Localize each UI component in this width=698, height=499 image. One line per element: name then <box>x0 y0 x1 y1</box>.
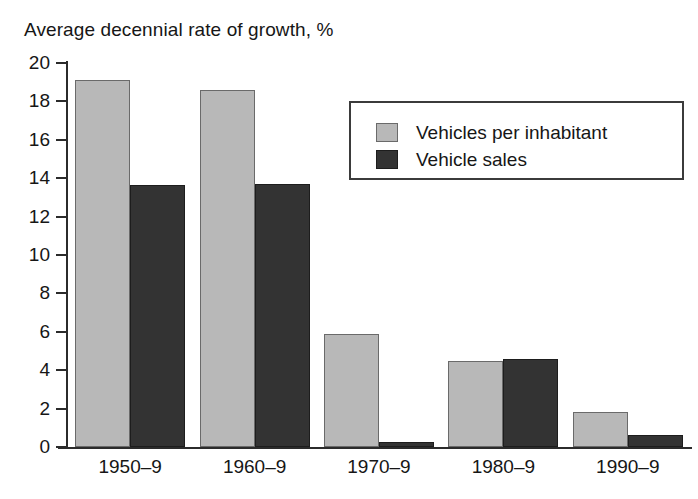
y-axis-tick-label: 14 <box>0 168 50 187</box>
x-axis-tick-label: 1980–9 <box>441 456 565 478</box>
bar[interactable] <box>75 80 130 447</box>
y-axis-tick <box>56 369 66 371</box>
bar[interactable] <box>130 185 185 447</box>
chart-legend: Vehicles per inhabitantVehicle sales <box>349 101 684 180</box>
y-axis-tick-label-text: 16 <box>2 130 50 149</box>
chart-title: Average decennial rate of growth, % <box>24 19 333 41</box>
y-axis-tick-label: 0 <box>0 437 50 456</box>
y-axis-tick-label-text: 0 <box>2 437 50 456</box>
y-axis-tick <box>56 292 66 294</box>
bar-group <box>200 63 310 447</box>
y-axis-tick-label-text: 10 <box>2 245 50 264</box>
y-axis-tick <box>56 100 66 102</box>
y-axis-tick <box>56 216 66 218</box>
y-axis-tick-label-text: 12 <box>2 207 50 226</box>
bar[interactable] <box>200 90 255 447</box>
x-axis-tick-label: 1960–9 <box>192 456 316 478</box>
y-axis-tick-label: 2 <box>0 399 50 418</box>
bar-group <box>75 63 185 447</box>
y-axis-tick-label-text: 8 <box>2 283 50 302</box>
bar[interactable] <box>628 435 683 447</box>
y-axis-tick <box>56 177 66 179</box>
bar[interactable] <box>503 359 558 447</box>
y-axis-tick-label: 12 <box>0 207 50 226</box>
bar[interactable] <box>448 361 503 447</box>
y-axis-tick-label: 4 <box>0 360 50 379</box>
y-axis-tick-label-text: 18 <box>2 91 50 110</box>
legend-item-label: Vehicle sales <box>416 149 527 170</box>
y-axis-tick-label-text: 4 <box>2 360 50 379</box>
x-axis-line <box>58 447 692 449</box>
y-axis-tick-label: 16 <box>0 130 50 149</box>
x-axis-tick-label: 1990–9 <box>566 456 690 478</box>
y-axis-tick <box>56 408 66 410</box>
y-axis-tick-label: 6 <box>0 322 50 341</box>
y-axis-tick-label: 10 <box>0 245 50 264</box>
x-axis-tick-label: 1970–9 <box>317 456 441 478</box>
legend-swatch-icon <box>376 150 398 169</box>
bar[interactable] <box>573 412 628 447</box>
legend-item[interactable]: Vehicle sales <box>376 146 527 172</box>
y-axis-tick <box>56 331 66 333</box>
x-axis-tick-label: 1950–9 <box>68 456 192 478</box>
legend-item-label: Vehicles per inhabitant <box>416 122 607 143</box>
y-axis-tick <box>56 139 66 141</box>
y-axis-tick-label-text: 6 <box>2 322 50 341</box>
y-axis-tick-label: 18 <box>0 91 50 110</box>
legend-swatch-icon <box>376 123 398 142</box>
bar[interactable] <box>255 184 310 447</box>
y-axis-tick-label-text: 2 <box>2 399 50 418</box>
bar-chart-figure: Average decennial rate of growth, % 0246… <box>0 0 698 499</box>
y-axis-tick-label: 8 <box>0 283 50 302</box>
y-axis-tick-label-text: 14 <box>2 168 50 187</box>
legend-item[interactable]: Vehicles per inhabitant <box>376 119 607 145</box>
y-axis-tick <box>56 446 66 448</box>
y-axis-tick-label: 20 <box>0 53 50 72</box>
bar[interactable] <box>379 442 434 447</box>
y-axis-tick <box>56 62 66 64</box>
bar[interactable] <box>324 334 379 447</box>
y-axis-tick <box>56 254 66 256</box>
y-axis-tick-label-text: 20 <box>2 53 50 72</box>
